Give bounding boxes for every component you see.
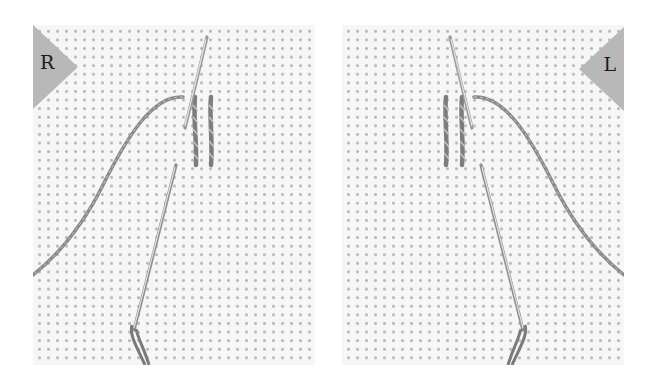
stitches	[194, 97, 211, 165]
thread	[33, 97, 183, 275]
badge-letter: R	[40, 53, 54, 72]
panel-left-handed: L	[342, 25, 624, 365]
panel-right-handed: R	[33, 25, 315, 365]
needle-lower	[481, 165, 523, 330]
stitching-illustration	[33, 25, 315, 365]
thread	[474, 97, 624, 275]
stitches	[445, 97, 462, 165]
stitching-illustration	[342, 25, 624, 365]
badge-letter: L	[603, 55, 616, 74]
needle-lower	[134, 165, 176, 330]
